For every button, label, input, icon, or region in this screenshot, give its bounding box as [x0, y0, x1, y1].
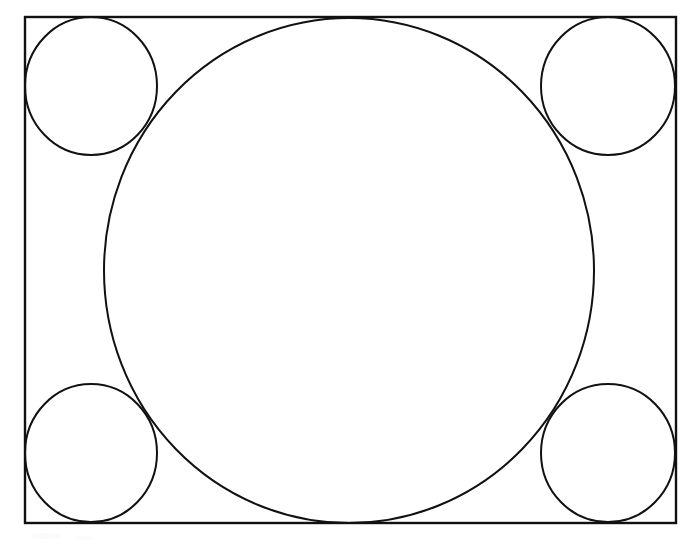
figure-canvas: Geometric line drawing: large circle ins…	[0, 0, 692, 544]
scan-speck-1	[30, 533, 62, 539]
corner-circle-top-left	[25, 17, 157, 155]
corner-circle-bottom-right	[541, 384, 675, 522]
corner-circle-top-right	[541, 17, 675, 155]
corner-circle-bottom-left	[25, 384, 157, 522]
bounding-rectangle	[25, 17, 676, 523]
scan-speck-2	[77, 536, 95, 540]
figure-svg: Geometric line drawing: large circle ins…	[0, 0, 692, 544]
central-inscribed-circle	[104, 18, 594, 523]
